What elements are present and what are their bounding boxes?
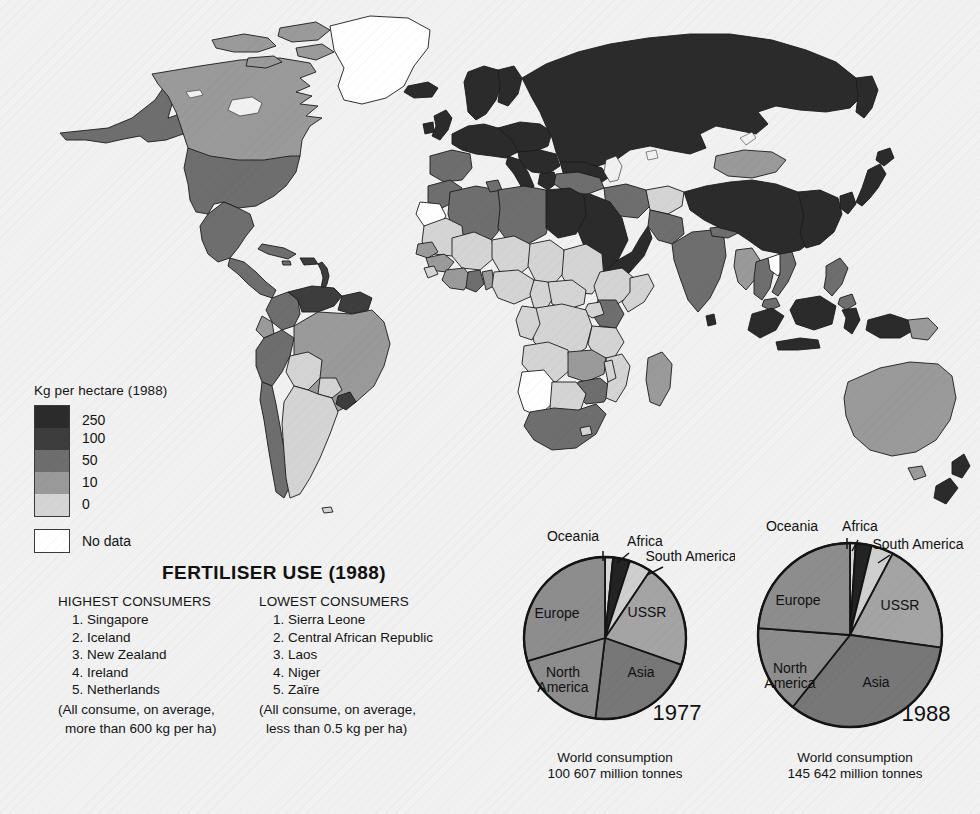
country-zambia — [568, 350, 606, 382]
legend-label-50: 50 — [82, 449, 105, 471]
lowest-note-line2: less than 0.5 kg per ha) — [259, 720, 478, 738]
list-item: 4.Ireland — [58, 664, 253, 682]
legend-color-ramp — [34, 405, 70, 517]
island-hispaniola — [300, 258, 318, 265]
country-indonesia-java — [776, 338, 820, 350]
list-item: 4.Niger — [259, 664, 478, 682]
list-item: 5.Netherlands — [58, 681, 253, 699]
country-korea — [840, 192, 856, 214]
lowest-item-3: Laos — [288, 647, 317, 662]
legend-band-250 — [35, 406, 69, 428]
pie-label-europe: Europe — [775, 592, 820, 608]
country-australia — [844, 362, 956, 456]
pie-label-europe: Europe — [534, 605, 579, 621]
country-afghanistan — [646, 186, 684, 214]
legend-title: Kg per hectare (1988) — [34, 383, 167, 398]
country-sri-lanka — [706, 314, 716, 326]
svg-text:USSR: USSR — [628, 604, 667, 620]
legend-nodata-row: No data — [34, 529, 167, 553]
country-pakistan — [648, 210, 684, 244]
svg-text:Europe: Europe — [534, 605, 579, 621]
arctic-islands — [212, 34, 276, 52]
legend-band-50 — [35, 450, 69, 472]
pie-1977-caption-line2: 100 607 million tonnes — [495, 766, 735, 782]
highest-item-5: Netherlands — [87, 682, 160, 697]
pie-label-oceania: Oceania — [547, 528, 599, 544]
legend-band-0 — [35, 494, 69, 516]
country-argentina — [282, 386, 338, 498]
highest-item-4: Ireland — [87, 665, 128, 680]
legend-label-100: 100 — [82, 427, 105, 449]
country-madagascar — [646, 352, 672, 406]
lowest-item-4: Niger — [288, 665, 320, 680]
legend-nodata-label: No data — [82, 533, 131, 549]
highest-consumers-column: HIGHEST CONSUMERS 1.Singapore 2.Iceland … — [58, 594, 253, 738]
pie-charts-panel: USSRAsiaNorthAmericaEuropeOceaniaAfricaS… — [485, 505, 980, 805]
pie-1988-caption-line1: World consumption — [730, 750, 980, 766]
pie-1977-caption-line1: World consumption — [495, 750, 735, 766]
country-iceland — [404, 82, 438, 98]
svg-text:USSR: USSR — [881, 597, 920, 613]
country-indonesia-borneo — [790, 296, 836, 330]
list-item: 3.New Zealand — [58, 646, 253, 664]
country-nigeria — [492, 270, 534, 304]
country-philippines — [824, 258, 848, 296]
aral-sea — [646, 150, 658, 160]
pie-label-asia: Asia — [862, 674, 889, 690]
page-title: FERTILISER USE (1988) — [58, 562, 478, 584]
list-item: 1.Sierra Leone — [259, 611, 478, 629]
pie-label-ussr: USSR — [881, 597, 920, 613]
legend-label-0: 0 — [82, 493, 105, 515]
arctic-islands-2 — [278, 22, 330, 42]
pie-label-africa: Africa — [627, 533, 663, 549]
legend-band-100 — [35, 428, 69, 450]
list-item: 2.Iceland — [58, 629, 253, 647]
svg-text:Asia: Asia — [627, 664, 654, 680]
kamchatka — [856, 76, 878, 118]
country-finland — [498, 66, 522, 106]
country-papua-new-guinea — [866, 314, 914, 338]
legend-label-250: 250 — [82, 405, 105, 427]
country-japan-north — [876, 148, 894, 166]
island-jamaica — [282, 261, 291, 265]
country-indonesia-sulawesi — [842, 308, 860, 334]
country-lesotho — [580, 426, 592, 436]
lowest-item-1: Sierra Leone — [288, 612, 365, 627]
list-item: 1.Singapore — [58, 611, 253, 629]
pie-chart-1988: USSRAsiaNorthAmericaEuropeOceaniaAfricaS… — [730, 505, 980, 755]
pie-label-africa: Africa — [842, 518, 878, 534]
country-mali — [452, 232, 494, 270]
country-china-east — [798, 190, 842, 248]
pie-1977-caption: World consumption 100 607 million tonnes — [495, 750, 735, 782]
pie-year-label: 1977 — [653, 700, 702, 725]
lowest-consumers-column: LOWEST CONSUMERS 1.Sierra Leone 2.Centra… — [259, 594, 478, 738]
pie-chart-1977-svg: USSRAsiaNorthAmericaEuropeOceaniaAfricaS… — [495, 505, 735, 755]
country-ireland — [423, 122, 434, 134]
island-cuba — [258, 244, 296, 259]
country-ghana — [466, 270, 484, 292]
pie-chart-1977: USSRAsiaNorthAmericaEuropeOceaniaAfricaS… — [495, 505, 735, 755]
fertiliser-panel: FERTILISER USE (1988) HIGHEST CONSUMERS … — [58, 562, 478, 738]
country-tasmania — [908, 466, 926, 480]
highest-item-3: New Zealand — [87, 647, 167, 662]
pie-label-south-america: South America — [872, 536, 963, 552]
pie-1988-caption-line2: 145 642 million tonnes — [730, 766, 980, 782]
highest-note-line1: (All consume, on average, — [58, 701, 253, 719]
legend-labels: 250 100 50 10 0 — [82, 405, 105, 515]
country-norway-sweden — [464, 66, 502, 120]
list-item: 3.Laos — [259, 646, 478, 664]
country-new-zealand-north — [952, 454, 970, 478]
arctic-islands-4 — [296, 44, 334, 60]
country-png-east — [908, 318, 938, 340]
lake-baikal — [740, 132, 756, 145]
country-uk — [432, 110, 452, 140]
country-ussr — [522, 34, 862, 166]
country-japan — [856, 164, 886, 206]
highest-item-1: Singapore — [87, 612, 149, 627]
svg-text:North: North — [546, 664, 580, 680]
highest-item-2: Iceland — [87, 630, 131, 645]
country-peru — [256, 330, 294, 386]
country-new-zealand-south — [934, 478, 958, 504]
svg-text:North: North — [773, 660, 807, 676]
lowest-consumers-heading: LOWEST CONSUMERS — [259, 594, 478, 609]
